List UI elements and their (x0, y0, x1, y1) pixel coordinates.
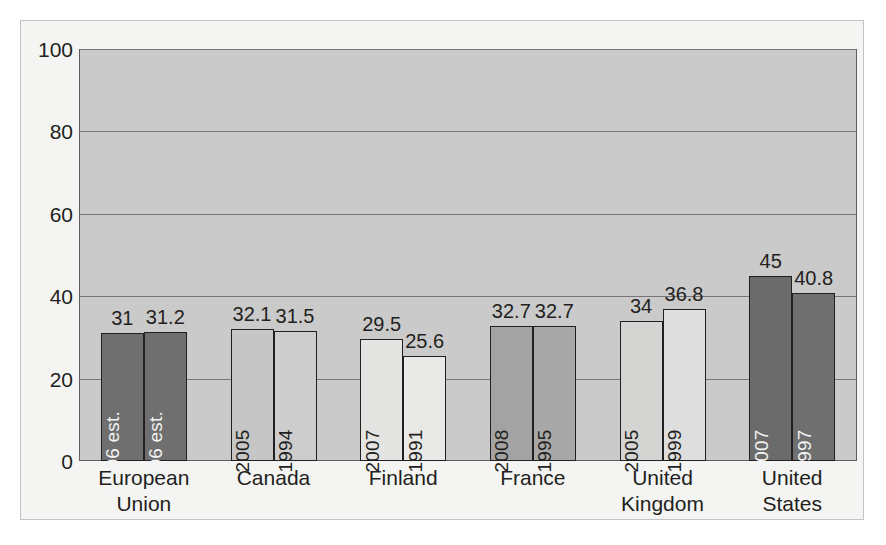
bar-value-label: 25.6 (405, 331, 444, 351)
y-tick-label-20: 20 (27, 368, 73, 389)
x-category-line: United (727, 465, 857, 491)
x-category-label-france: France (468, 465, 598, 491)
x-category-label-united-states: UnitedStates (727, 465, 857, 517)
x-category-line: Finland (338, 465, 468, 491)
bar-value-label: 40.8 (794, 268, 833, 288)
bar-value-label: 31.5 (276, 306, 315, 326)
y-tick-label-0: 0 (27, 451, 73, 472)
y-tick-label-100: 100 (27, 39, 73, 60)
x-category-line: France (468, 465, 598, 491)
bar-value-label: 31 (111, 308, 133, 328)
bar-canada-1994[interactable]: 1994 (274, 331, 317, 461)
bar-value-label: 34 (630, 296, 652, 316)
bars-layer: 2006 est.311996 est.31.2200532.1199431.5… (79, 49, 857, 461)
x-category-line: States (727, 491, 857, 517)
bar-value-label: 32.1 (233, 304, 272, 324)
bar-united-kingdom-2005[interactable]: 2005 (620, 321, 663, 461)
x-axis: EuropeanUnionCanadaFinlandFranceUnitedKi… (79, 463, 857, 521)
bar-canada-2005[interactable]: 2005 (231, 329, 274, 461)
y-tick-label-60: 60 (27, 203, 73, 224)
x-category-label-united-kingdom: UnitedKingdom (598, 465, 728, 517)
bar-france-2008[interactable]: 2008 (490, 326, 533, 461)
x-category-label-finland: Finland (338, 465, 468, 491)
x-category-label-european-union: EuropeanUnion (79, 465, 209, 517)
bar-value-label: 32.7 (492, 301, 531, 321)
bar-france-1995[interactable]: 1995 (533, 326, 576, 461)
x-category-line: Kingdom (598, 491, 728, 517)
x-category-line: European (79, 465, 209, 491)
bar-european-union-2006[interactable]: 2006 est. (101, 333, 144, 461)
bar-united-states-1997[interactable]: 1997 (792, 293, 835, 461)
bar-value-label: 32.7 (535, 301, 574, 321)
bar-united-states-2007[interactable]: 2007 (749, 276, 792, 461)
bar-finland-2007[interactable]: 2007 (360, 339, 403, 461)
x-category-label-canada: Canada (209, 465, 339, 491)
y-tick-label-40: 40 (27, 286, 73, 307)
bar-value-label: 31.2 (146, 307, 185, 327)
x-category-line: Canada (209, 465, 339, 491)
bar-united-kingdom-1999[interactable]: 1999 (663, 309, 706, 461)
bar-european-union-1996[interactable]: 1996 est. (144, 332, 187, 461)
bar-value-label: 45 (760, 251, 782, 271)
y-tick-label-80: 80 (27, 121, 73, 142)
bar-finland-1991[interactable]: 1991 (403, 356, 446, 461)
y-axis: 020406080100 (21, 49, 73, 461)
x-category-line: United (598, 465, 728, 491)
x-category-line: Union (79, 491, 209, 517)
bar-value-label: 29.5 (362, 314, 401, 334)
figure-frame: 020406080100 2006 est.311996 est.31.2200… (20, 20, 864, 520)
bar-value-label: 36.8 (665, 284, 704, 304)
